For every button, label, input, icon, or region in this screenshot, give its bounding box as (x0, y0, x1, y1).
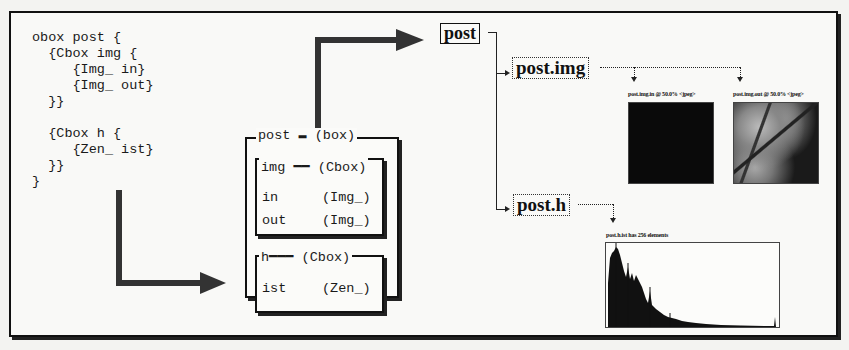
field-in-name: in (262, 190, 278, 205)
arrow-icon (505, 70, 510, 76)
connector (496, 32, 497, 210)
box-h-label: h━━━ (Cbox) (259, 248, 352, 265)
histogram-view[interactable] (605, 242, 780, 328)
connector (600, 67, 740, 68)
connector (578, 204, 613, 205)
code-line: {Cbox h { (32, 126, 121, 141)
arrow-down-icon (631, 77, 637, 82)
image-in-title: post.img.in @ 50.0% <jpeg> (628, 91, 696, 97)
source-code: obox post { {Cbox img { {Img_ in} {Img_ … (32, 30, 154, 190)
node-post-h[interactable]: post.h (513, 194, 570, 216)
field-ist-name: ist (262, 281, 286, 296)
box-img-label: img ━━ (Cbox) (259, 158, 368, 175)
field-ist-type: (Zen_) (322, 281, 371, 296)
field-in-type: (Img_) (322, 190, 371, 205)
code-line: {Img_ in} (32, 62, 145, 77)
code-line: obox post { (32, 30, 121, 45)
node-post[interactable]: post (440, 23, 480, 44)
code-line: }} (32, 158, 64, 173)
code-line: }} (32, 94, 64, 109)
image-out-view[interactable] (733, 102, 819, 184)
field-out-type: (Img_) (322, 213, 371, 228)
field-out-name: out (262, 213, 286, 228)
image-in-view[interactable] (628, 102, 714, 184)
histogram-bars (606, 243, 779, 327)
connector (613, 204, 614, 218)
code-line: } (32, 174, 40, 189)
code-line: {Zen_ ist} (32, 142, 154, 157)
code-line: {Cbox img { (32, 46, 137, 61)
histogram-title: post.h.ist has 256 elements (606, 232, 668, 238)
arrow-down-icon (737, 77, 743, 82)
image-out-title: post.img.out @ 50.0% <jpeg> (733, 91, 804, 97)
box-post-label: post ▬ (box) (256, 128, 357, 143)
connector (634, 67, 635, 77)
connector (740, 67, 741, 77)
arrow-down-icon (610, 218, 616, 223)
node-post-img[interactable]: post.img (512, 57, 589, 79)
code-line: {Img_ out} (32, 78, 154, 93)
arrow-icon (505, 206, 510, 212)
connector (488, 32, 496, 33)
